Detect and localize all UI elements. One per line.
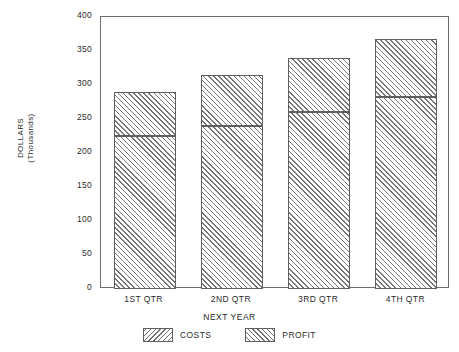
bar-segment-profit[interactable] — [114, 92, 176, 136]
x-axis-tick-label: 4TH QTR — [365, 294, 445, 304]
x-axis-title: NEXT YEAR — [0, 312, 459, 322]
legend-entry-profit: PROFIT — [245, 328, 316, 342]
y-axis-tick-label: 350 — [77, 44, 92, 54]
legend-entry-costs: COSTS — [143, 328, 211, 342]
bar-2[interactable] — [201, 75, 263, 289]
bar-1[interactable] — [114, 92, 176, 289]
y-axis-title-line2: (Thousands) — [26, 90, 36, 186]
y-axis-tick-label: 100 — [77, 214, 92, 224]
y-axis-tick-label: 50 — [82, 248, 92, 258]
plot-area — [100, 16, 449, 288]
bar-segment-profit[interactable] — [288, 58, 350, 112]
y-axis-tick-label: 250 — [77, 112, 92, 122]
bar-segment-costs[interactable] — [201, 126, 263, 289]
legend: COSTS PROFIT — [0, 328, 459, 342]
y-axis-tick-label: 200 — [77, 146, 92, 156]
x-axis-tick-label: 1ST QTR — [104, 294, 184, 304]
legend-swatch-costs-icon — [143, 328, 173, 342]
y-axis-title: DOLLARS (Thousands) — [16, 90, 36, 186]
legend-label-profit: PROFIT — [282, 330, 316, 340]
bar-segment-profit[interactable] — [201, 75, 263, 126]
y-axis-tick-label: 400 — [77, 10, 92, 20]
bar-segment-costs[interactable] — [375, 97, 437, 289]
bar-3[interactable] — [288, 58, 350, 289]
bar-segment-costs[interactable] — [288, 112, 350, 289]
x-axis-tick-label: 2ND QTR — [191, 294, 271, 304]
bar-segment-profit[interactable] — [375, 39, 437, 97]
y-axis-tick-label: 300 — [77, 78, 92, 88]
y-axis-tick-label: 0 — [87, 282, 92, 292]
bar-segment-costs[interactable] — [114, 136, 176, 289]
legend-swatch-profit-icon — [245, 328, 275, 342]
bar-4[interactable] — [375, 39, 437, 289]
x-axis-tick-label: 3RD QTR — [278, 294, 358, 304]
y-axis-tick-label: 150 — [77, 180, 92, 190]
stacked-bar-chart: DOLLARS (Thousands) 05010015020025030035… — [0, 0, 459, 352]
y-axis-title-line1: DOLLARS — [16, 90, 26, 186]
legend-label-costs: COSTS — [180, 330, 211, 340]
